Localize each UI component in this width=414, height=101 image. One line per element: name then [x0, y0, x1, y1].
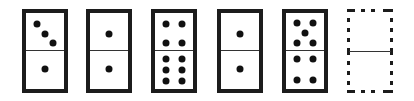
domino-3-bottom-half [155, 51, 193, 89]
pip-icon [179, 40, 186, 47]
pip-icon [162, 78, 169, 85]
pip-icon [162, 67, 169, 74]
pip-icon [310, 40, 317, 47]
pip-icon [310, 55, 317, 62]
domino-3-top-half [155, 13, 193, 51]
pip-icon [42, 66, 49, 73]
domino-4 [217, 9, 263, 93]
pip-icon [162, 40, 169, 47]
pip-icon [293, 76, 300, 83]
pip-icon [237, 66, 244, 73]
pip-icon [50, 40, 57, 47]
domino-2 [86, 9, 132, 93]
pip-icon [162, 21, 169, 28]
domino-6-unknown[interactable] [347, 9, 393, 93]
domino-1-bottom-half [26, 51, 64, 89]
domino-4-top-half [221, 13, 259, 51]
domino-1-top-half [26, 13, 64, 51]
pip-icon [179, 55, 186, 62]
pip-icon [106, 30, 113, 37]
dashed-domino-outline-icon [347, 9, 393, 93]
pip-icon [42, 30, 49, 37]
pip-icon [237, 30, 244, 37]
pip-icon [293, 40, 300, 47]
pip-icon [310, 19, 317, 26]
pip-icon [310, 76, 317, 83]
pip-icon [293, 19, 300, 26]
domino-2-bottom-half [90, 51, 128, 89]
domino-4-bottom-half [221, 51, 259, 89]
domino-5-top-half [286, 13, 324, 51]
pip-icon [162, 55, 169, 62]
pip-icon [179, 78, 186, 85]
domino-3 [151, 9, 197, 93]
domino-1 [22, 9, 68, 93]
pip-icon [179, 21, 186, 28]
pip-icon [293, 55, 300, 62]
domino-5-bottom-half [286, 51, 324, 89]
domino-2-top-half [90, 13, 128, 51]
domino-5 [282, 9, 328, 93]
pip-icon [106, 66, 113, 73]
pip-icon [302, 29, 309, 36]
pip-icon [33, 21, 40, 28]
pip-icon [179, 67, 186, 74]
